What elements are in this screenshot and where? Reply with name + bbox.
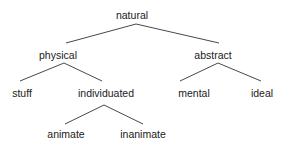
edge-individuated-inanimate [104,105,143,124]
node-inanimate: inanimate [120,129,166,140]
edge-natural-physical [66,24,136,43]
node-individuated: individuated [78,88,134,99]
node-stuff: stuff [12,88,32,99]
node-physical: physical [39,50,77,61]
node-animate: animate [47,129,84,140]
edge-individuated-animate [65,105,104,124]
edge-physical-individuated [64,63,102,81]
node-mental: mental [178,88,210,99]
edge-abstract-ideal [218,63,261,81]
edge-physical-stuff [20,63,64,81]
tree-edges [0,0,288,146]
tree-diagram: natural physical abstract stuff individu… [0,0,288,146]
edge-natural-abstract [136,24,219,43]
node-natural: natural [116,10,148,21]
node-abstract: abstract [194,50,231,61]
edge-abstract-mental [180,63,218,81]
node-ideal: ideal [251,88,273,99]
